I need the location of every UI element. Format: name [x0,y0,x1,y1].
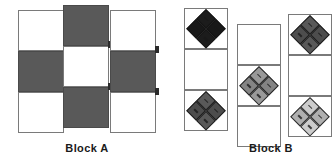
patch-b1-c3 [184,90,228,131]
block-b-column-3 [288,14,332,137]
patch-b1-c1 [184,8,228,49]
quilt-block-figure: Block ABlock B [0,0,335,162]
patch-b1-c2 [184,49,228,90]
patch-b2-c3 [237,106,281,147]
block-b-caption: Block B [241,142,301,154]
block-b: Block B [0,0,335,162]
patch-b3-c3 [288,96,332,137]
patch-b3-c1 [288,14,332,55]
patch-b3-c2 [288,55,332,96]
block-b-column-1 [184,8,228,131]
patch-b2-c1 [237,24,281,65]
block-b-column-2 [237,24,281,147]
patch-b2-c2 [237,65,281,106]
